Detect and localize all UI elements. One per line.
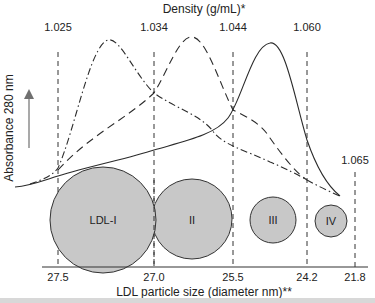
density-tick-3: 1.044 bbox=[219, 21, 247, 33]
series-solid-curve bbox=[15, 43, 340, 196]
series-dashed-curve bbox=[58, 37, 307, 180]
density-tick-5: 1.065 bbox=[341, 154, 369, 166]
particle-label-LDL-I: LDL-I bbox=[90, 214, 117, 226]
size-tick-3: 25.5 bbox=[222, 271, 243, 283]
lipoprotein-figure: Density (g/mL)* 1.025 1.034 1.044 1.060 … bbox=[0, 0, 375, 303]
bottom-edge-bar bbox=[0, 298, 375, 303]
bottom-axis-title: LDL particle size (diameter nm)** bbox=[116, 285, 292, 299]
up-arrow-icon bbox=[24, 89, 34, 99]
top-axis-title: Density (g/mL)* bbox=[163, 2, 246, 16]
particle-label-III: III bbox=[268, 214, 277, 226]
series-dash-dot-curve bbox=[30, 40, 340, 196]
size-tick-2: 27.0 bbox=[143, 271, 164, 283]
size-tick-4: 24.2 bbox=[296, 271, 317, 283]
density-tick-2: 1.034 bbox=[140, 21, 168, 33]
size-tick-5: 21.8 bbox=[344, 271, 365, 283]
y-axis-title: Absorbance 280 nm bbox=[2, 74, 16, 181]
particle-label-II: II bbox=[189, 214, 195, 226]
size-tick-1: 27.5 bbox=[47, 271, 68, 283]
density-tick-1: 1.025 bbox=[44, 21, 72, 33]
particle-label-IV: IV bbox=[326, 215, 337, 227]
density-tick-4: 1.060 bbox=[293, 21, 321, 33]
